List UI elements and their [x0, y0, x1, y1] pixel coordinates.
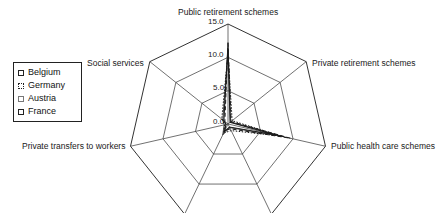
series-polygon [223, 50, 284, 137]
series-layer [222, 43, 291, 139]
legend-label: Germany [28, 80, 65, 91]
axis-label-private-transfers-to-workers: Private transfers to workers [22, 141, 125, 151]
axis-spoke [131, 124, 228, 146]
axis-label-social-services: Social services [87, 58, 144, 68]
legend-label: Belgium [28, 67, 61, 78]
axis-spoke [185, 124, 228, 213]
legend-item-belgium[interactable]: Belgium [18, 66, 77, 79]
legend-swatch-icon [18, 70, 24, 76]
legend-label: Austria [28, 93, 56, 104]
legend-swatch-icon [18, 96, 24, 102]
legend-item-germany[interactable]: Germany [18, 79, 77, 92]
axis-spoke [228, 124, 271, 213]
radial-tick-label-0: 0.0 [213, 117, 224, 126]
axis-label-public-retirement-schemes: Public retirement schemes [178, 7, 278, 17]
radial-tick-label-5: 5.0 [213, 83, 224, 92]
legend-swatch-icon [18, 83, 24, 89]
radial-tick-label-15: 15.0 [208, 17, 224, 26]
axis-spoke [150, 62, 228, 124]
legend-label: France [28, 106, 56, 117]
axis-spoke [228, 62, 306, 124]
legend-item-france[interactable]: France [18, 105, 77, 118]
radar-chart: Public retirement schemes Private retire… [0, 0, 439, 213]
axis-label-public-health-care-schemes: Public health care schemes [331, 141, 435, 151]
legend-item-austria[interactable]: Austria [18, 92, 77, 105]
legend-swatch-icon [18, 109, 24, 115]
chart-legend: Belgium Germany Austria France [13, 62, 82, 122]
axis-label-private-retirement-schemes: Private retirement schemes [312, 58, 415, 68]
radial-tick-label-10: 10.0 [208, 50, 224, 59]
series-polygon [222, 53, 281, 136]
